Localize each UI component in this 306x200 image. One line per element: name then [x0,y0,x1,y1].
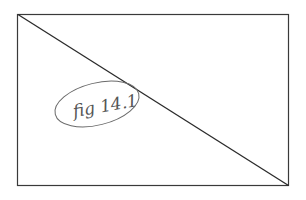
diagonal-line [18,15,289,186]
figure-label: fig 14.1 [69,90,139,121]
figure-sketch: fig 14.1 [0,0,306,200]
